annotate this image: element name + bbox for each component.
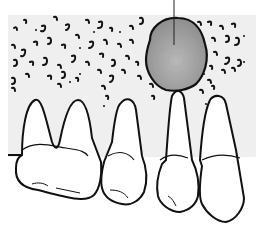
lesion [146, 18, 207, 91]
dental-diagram [0, 0, 256, 228]
diagram-svg [0, 0, 256, 228]
